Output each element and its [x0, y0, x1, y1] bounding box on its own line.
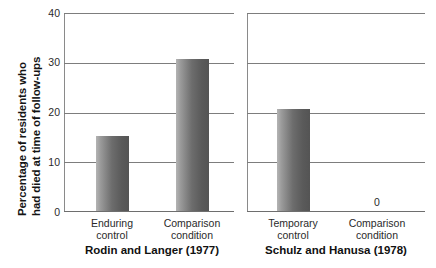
y-tick-label-0: 0: [40, 207, 60, 218]
panel-title-rodin-and-langer: Rodin and Langer (1977): [85, 244, 219, 256]
y-axis-title: Percentage of residents who had died at …: [0, 0, 42, 225]
bar-chart-figure: Percentage of residents who had died at …: [0, 0, 436, 268]
category-label-line-2: control: [268, 230, 318, 242]
category-label-line-1: Temporary: [268, 218, 318, 230]
gridline-10-right: [247, 162, 425, 163]
panel-schulz-and-hanusa: 0: [247, 13, 425, 212]
gridline-30-right: [247, 63, 425, 64]
gridline-20-right: [247, 113, 425, 114]
bar-temporary-control[interactable]: [277, 109, 310, 211]
gridline-20-left: [64, 113, 234, 114]
gridline-30-left: [64, 63, 234, 64]
y-tick-label-40: 40: [40, 8, 60, 19]
gridline-40-right: [247, 13, 425, 14]
x-axis-baseline-right: [247, 211, 425, 213]
category-label-line-2: condition: [349, 230, 406, 242]
bar-value-label-comparison-condition-right: 0: [374, 196, 380, 208]
category-label-comparison-condition-left: Comparison condition: [164, 218, 221, 241]
panel-rodin-and-langer: [64, 13, 234, 212]
category-label-line-1: Enduring: [91, 218, 133, 230]
category-label-line-2: control: [91, 230, 133, 242]
y-tick-label-10: 10: [40, 157, 60, 168]
y-axis-title-line-1: Percentage of residents who: [17, 62, 29, 216]
bar-enduring-control[interactable]: [96, 136, 129, 211]
category-label-line-1: Comparison: [164, 218, 221, 230]
gridline-40-left: [64, 13, 234, 14]
category-label-line-1: Comparison: [349, 218, 406, 230]
y-tick-label-20: 20: [40, 107, 60, 118]
category-label-line-2: condition: [164, 230, 221, 242]
gridline-10-left: [64, 162, 234, 163]
bar-comparison-condition-left[interactable]: [176, 59, 209, 211]
category-label-enduring-control: Enduring control: [91, 218, 133, 241]
y-axis-tick-labels: 40 30 20 10 0: [40, 0, 60, 225]
y-tick-label-30: 30: [40, 57, 60, 68]
x-axis-baseline-left: [64, 211, 234, 213]
panel-title-schulz-and-hanusa: Schulz and Hanusa (1978): [265, 244, 407, 256]
category-label-temporary-control: Temporary control: [268, 218, 318, 241]
category-label-comparison-condition-right: Comparison condition: [349, 218, 406, 241]
